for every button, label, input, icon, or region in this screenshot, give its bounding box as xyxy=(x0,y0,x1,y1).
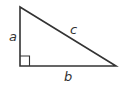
side-label-c: c xyxy=(70,22,77,37)
side-label-a: a xyxy=(9,29,17,44)
side-label-b: b xyxy=(64,69,72,84)
triangle xyxy=(20,7,116,66)
right-angle-marker xyxy=(20,56,30,66)
right-triangle-diagram: a c b xyxy=(0,0,119,85)
